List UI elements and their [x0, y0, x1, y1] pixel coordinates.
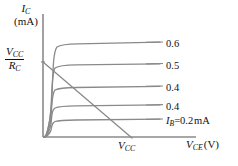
curve-label-0-5: 0.5	[166, 60, 179, 71]
y-axis-unit: (mA)	[14, 16, 38, 28]
curve-ib-0-6	[44, 42, 160, 137]
y-tick-denominator: RC	[5, 60, 24, 73]
curve-ib-0-5	[44, 64, 160, 137]
curve-label-0-6: 0.6	[166, 38, 179, 49]
transistor-characteristics-figure: IC (mA) VCC RC VCE (V) VCC 0.6 0.5 0.4 0…	[0, 0, 238, 166]
y-axis-title: IC (mA)	[14, 3, 38, 28]
x-tick-vcc: VCC	[118, 140, 135, 153]
ib-value: 0.2	[180, 115, 193, 126]
curve-label-0-4-b: 0.4	[166, 101, 179, 112]
y-tick-numerator: VCC	[5, 46, 24, 60]
curve-ib-0-2	[44, 119, 160, 137]
curve-label-0-4-a: 0.4	[166, 82, 179, 93]
x-axis-symbol: V	[186, 138, 193, 150]
dc-load-line	[43, 62, 132, 138]
x-axis-unit: (V)	[204, 138, 219, 150]
curve-label-ib-0-2-ma: IB=0.2 mA	[166, 115, 210, 128]
ib-unit: mA	[194, 115, 210, 126]
y-tick-vcc-over-rc: VCC RC	[5, 46, 24, 73]
x-axis-title: VCE (V)	[186, 139, 219, 152]
x-axis-subscript: CE	[193, 143, 203, 152]
